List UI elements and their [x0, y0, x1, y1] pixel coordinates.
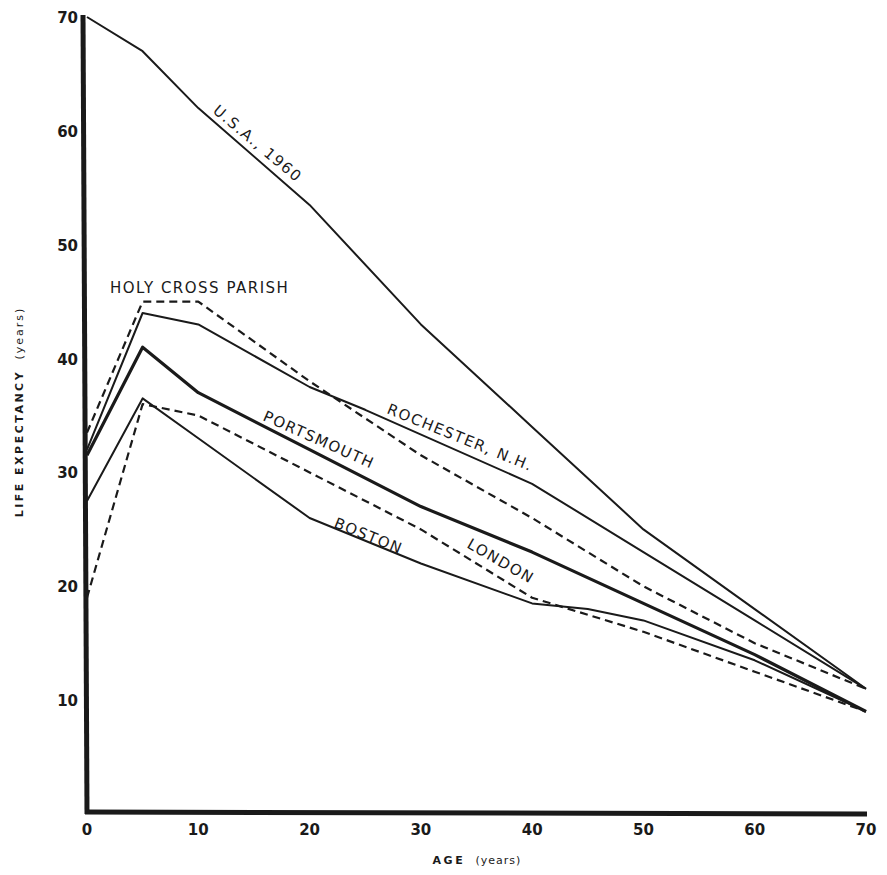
x-tick-label: 50 — [633, 821, 654, 839]
y-tick-label: 20 — [57, 578, 78, 596]
series-line-rochester-n-h — [87, 313, 866, 689]
label-london: LONDON — [464, 535, 537, 588]
x-axis-title: AGE (years) — [433, 854, 522, 867]
y-tick-label: 70 — [57, 9, 78, 27]
y-axis-title: LIFE EXPECTANCY (years) — [13, 307, 26, 518]
series-line-portsmouth — [87, 347, 866, 711]
series-lines — [87, 17, 866, 712]
x-tick-label: 10 — [188, 821, 209, 839]
y-tick-label: 50 — [57, 237, 78, 255]
series-line-u-s-a-1960 — [87, 17, 866, 689]
label-boston: BOSTON — [332, 514, 406, 558]
y-tick-label: 30 — [57, 464, 78, 482]
label-portsmouth: PORTSMOUTH — [260, 407, 377, 472]
x-axis-line — [85, 812, 867, 814]
series-line-holy-cross-parish — [87, 302, 866, 689]
x-tick-label: 60 — [744, 821, 765, 839]
life-expectancy-chart: 010203040506070 10203040506070 AGE (year… — [0, 0, 887, 875]
y-tick-label: 40 — [57, 351, 78, 369]
label-rochester-nh: ROCHESTER, N.H. — [385, 400, 536, 475]
x-tick-label: 40 — [522, 821, 543, 839]
y-axis-line — [83, 15, 87, 814]
y-axis-ticks: 10203040506070 — [57, 9, 78, 710]
x-tick-label: 0 — [82, 821, 92, 839]
y-tick-label: 10 — [57, 692, 78, 710]
x-tick-label: 70 — [856, 821, 877, 839]
x-axis-ticks: 010203040506070 — [82, 821, 877, 839]
label-usa-1960: U.S.A., 1960 — [209, 101, 305, 186]
y-tick-label: 60 — [57, 123, 78, 141]
x-tick-label: 20 — [299, 821, 320, 839]
x-tick-label: 30 — [410, 821, 431, 839]
label-holy-cross-parish: HOLY CROSS PARISH — [110, 279, 289, 297]
